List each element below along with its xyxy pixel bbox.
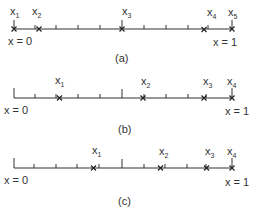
left-end-label: x = 0: [8, 35, 32, 47]
left-end-label: x = 0: [4, 174, 28, 186]
point-label-x4: x4: [207, 6, 217, 20]
panel-a: x1 x2 x3 x4 x5 x = 0 x = 1 (a): [8, 5, 238, 64]
point-label-x5: x5: [228, 6, 238, 20]
point-label-x1: x1: [92, 144, 102, 158]
point-label-x1: x1: [55, 74, 65, 88]
panel-caption: (a): [115, 52, 128, 64]
panel-c: x1 x2 x3 x4 x = 0 x = 1 (c): [4, 144, 249, 207]
point-label-x3: x3: [122, 5, 132, 19]
panel-caption: (b): [118, 123, 131, 135]
grid-point-diagram: x1 x2 x3 x4 x5 x = 0 x = 1 (a): [0, 0, 258, 210]
point-label-x3: x3: [205, 145, 215, 159]
right-end-label: x = 1: [225, 105, 249, 117]
right-end-label: x = 1: [213, 36, 237, 48]
left-end-label: x = 0: [4, 104, 28, 116]
point-label-x2: x2: [32, 5, 42, 19]
point-label-x2: x2: [141, 75, 151, 89]
panel-caption: (c): [118, 195, 131, 207]
point-label-x4: x4: [227, 145, 237, 159]
right-end-label: x = 1: [225, 176, 249, 188]
point-label-x4: x4: [227, 75, 237, 89]
panel-b: x1 x2 x3 x4 x = 0 x = 1 (b): [4, 74, 249, 135]
point-label-x2: x2: [159, 145, 169, 159]
point-label-x3: x3: [203, 75, 213, 89]
point-label-x1: x1: [10, 5, 20, 19]
